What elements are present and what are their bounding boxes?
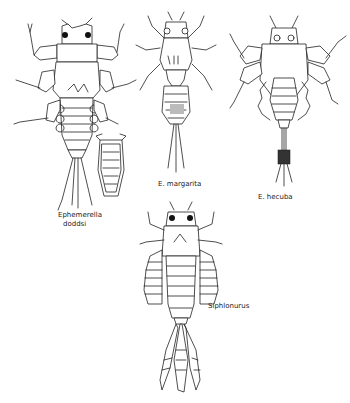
label-ephemerella-genus: Ephemerella [58, 211, 102, 220]
label-e-margarita: E. margarita [158, 180, 201, 189]
e-hecuba-drawing [220, 0, 350, 200]
label-e-hecuba: E. hecuba [258, 193, 293, 202]
label-ephemerella-doddsi: Ephemerella doddsi [58, 211, 102, 229]
label-siphlonurus: Siphlonurus [208, 302, 249, 311]
mayfly-nymph-figure: Ephemerella doddsi E. margarita E. hecub… [0, 0, 350, 403]
label-ephemerella-species: doddsi [58, 220, 102, 229]
e-margarita-drawing [110, 0, 230, 190]
